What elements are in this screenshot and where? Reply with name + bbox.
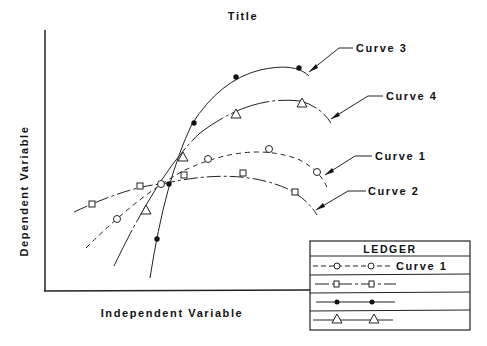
curve-4-callout-label: Curve 4 [386, 90, 438, 102]
curve-1-marker [314, 169, 321, 176]
diagram-canvas: Title Independent Variable Dependent Var… [0, 0, 487, 346]
curve-4-marker [141, 205, 151, 214]
curve-4-line [114, 100, 331, 266]
curve-1-callout-label: Curve 1 [375, 150, 427, 162]
x-axis-label: Independent Variable [101, 307, 244, 319]
curve-2-marker [240, 170, 246, 176]
curve-3-marker [233, 74, 238, 79]
curve-2-marker [292, 189, 298, 195]
legend-marker-filled-circle [335, 300, 340, 305]
curve-3-marker [191, 120, 196, 125]
curve-1-marker [114, 216, 121, 223]
arrowhead-icon [316, 203, 325, 210]
legend-marker-square [369, 281, 374, 287]
curve-3-callout-label: Curve 3 [356, 42, 408, 54]
curve-3-marker [296, 65, 301, 70]
arrowhead-icon [309, 64, 318, 72]
curve-3-line [150, 67, 309, 278]
curve-2-line [74, 176, 317, 215]
legend-marker-circle [334, 263, 340, 269]
curve-1-line [86, 152, 328, 248]
legend-marker-square [334, 281, 339, 287]
curve-1-marker [266, 146, 273, 153]
curve-2-marker [137, 183, 143, 189]
curve-2-marker [181, 172, 187, 178]
arrowhead-icon [331, 112, 340, 119]
curve-1-marker [158, 181, 165, 188]
legend: LEDGER Curve 1 [310, 241, 470, 330]
legend-marker-circle [368, 263, 374, 269]
diagram-title: Title [228, 10, 258, 22]
legend-title: LEDGER [363, 243, 416, 255]
curve-2-marker [89, 201, 95, 207]
curve-1-marker [205, 156, 212, 163]
curve-2-callout-label: Curve 2 [368, 185, 420, 197]
curve-3-marker [166, 181, 171, 186]
legend-label: Curve 1 [396, 260, 448, 272]
curve-3-marker [154, 236, 159, 241]
y-axis-label: Dependent Variable [18, 126, 30, 257]
arrowhead-icon [325, 168, 334, 175]
legend-marker-filled-circle [370, 300, 375, 305]
x-axis [44, 290, 310, 291]
